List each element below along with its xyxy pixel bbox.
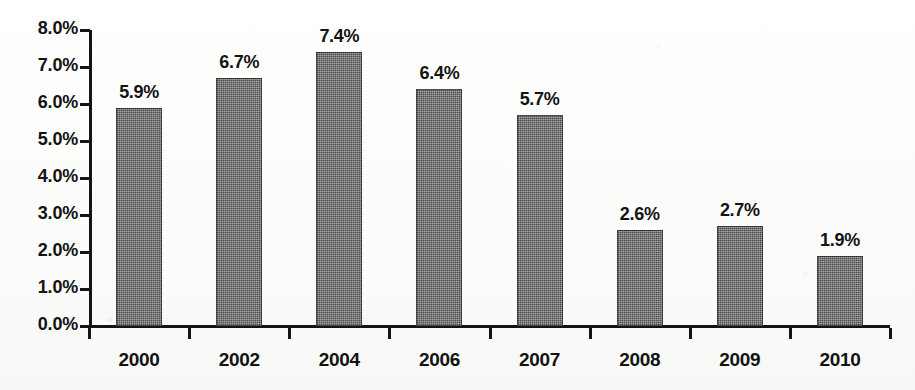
bar-chart: 0.0%1.0%2.0%3.0%4.0%5.0%6.0%7.0%8.0% 5.9… (0, 0, 915, 390)
x-axis-category-label: 2010 (790, 349, 890, 371)
x-axis-category-label: 2006 (389, 349, 489, 371)
x-axis-labels: 20002002200420062007200820092010 (0, 0, 915, 390)
x-axis-category-label: 2000 (89, 349, 189, 371)
x-axis-category-label: 2004 (289, 349, 389, 371)
x-axis-category-label: 2008 (590, 349, 690, 371)
x-axis-category-label: 2009 (690, 349, 790, 371)
x-axis-category-label: 2002 (189, 349, 289, 371)
x-axis-category-label: 2007 (490, 349, 590, 371)
